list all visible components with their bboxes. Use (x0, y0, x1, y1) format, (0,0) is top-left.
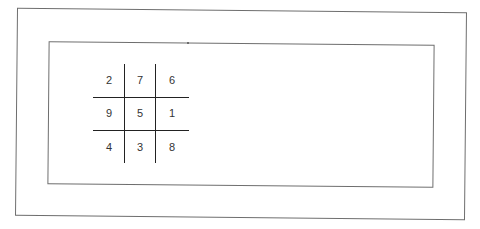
grid-cell-r3-c2: 3 (125, 137, 155, 157)
grid-horizontal-line-2 (93, 130, 189, 131)
grid-cell-r1-c3: 6 (157, 70, 187, 90)
number-grid: 2 7 6 9 5 1 4 3 8 (93, 64, 189, 164)
grid-cell-r1-c2: 7 (125, 70, 155, 90)
grid-cell-r2-c3: 1 (157, 103, 187, 123)
grid-cell-r2-c2: 5 (125, 103, 155, 123)
grid-cell-r3-c3: 8 (157, 137, 187, 157)
stray-mark (187, 42, 189, 44)
grid-horizontal-line-1 (93, 97, 189, 98)
grid-cell-r1-c1: 2 (94, 70, 124, 90)
grid-cell-r3-c1: 4 (94, 137, 124, 157)
grid-cell-r2-c1: 9 (94, 103, 124, 123)
